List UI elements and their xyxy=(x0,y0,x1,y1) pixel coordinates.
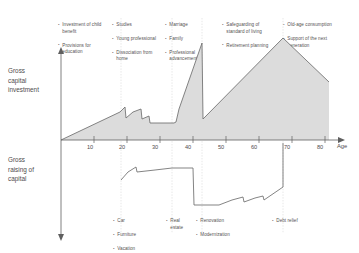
y-axis-arrow-down-icon xyxy=(58,234,64,241)
y-axis xyxy=(58,47,64,241)
plot-canvas xyxy=(0,0,359,253)
x-axis-arrow-icon xyxy=(338,137,345,143)
upper-area-fill xyxy=(61,38,329,140)
y-axis-arrow-up-icon xyxy=(58,47,64,54)
life-cycle-finance-diagram: Investment of child benefit Provisions f… xyxy=(0,0,359,253)
